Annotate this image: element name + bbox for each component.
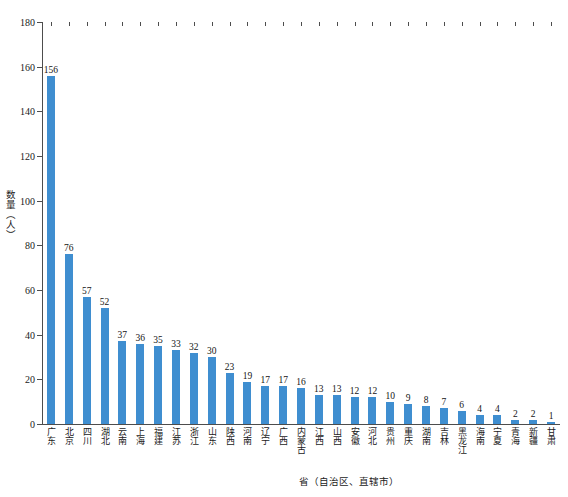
y-axis-title-text: 数量（人） <box>3 190 17 240</box>
x-tick-mark <box>301 22 302 26</box>
bar[interactable] <box>47 76 55 424</box>
bar[interactable] <box>458 411 466 424</box>
bar-slot[interactable]: 30 <box>203 22 221 424</box>
bar-slot[interactable]: 9 <box>399 22 417 424</box>
bar-slot[interactable]: 76 <box>60 22 78 424</box>
bar[interactable] <box>243 382 251 424</box>
bar-slot[interactable]: 37 <box>113 22 131 424</box>
bar-slot[interactable]: 12 <box>346 22 364 424</box>
bar-slot[interactable]: 23 <box>221 22 239 424</box>
x-tick-mark <box>158 22 159 26</box>
bar-slot[interactable]: 4 <box>489 22 507 424</box>
bar[interactable] <box>101 308 109 424</box>
x-category-label-text: 吉林 <box>439 427 448 445</box>
x-category-label-text: 四川 <box>82 427 91 445</box>
x-tick-mark <box>194 22 195 26</box>
bar[interactable] <box>118 341 126 424</box>
bar-slot[interactable]: 12 <box>364 22 382 424</box>
x-tick-mark <box>337 22 338 26</box>
bar[interactable] <box>154 346 162 424</box>
bar[interactable] <box>440 408 448 424</box>
x-tick-mark <box>444 22 445 26</box>
bar-slot[interactable]: 10 <box>381 22 399 424</box>
x-tick-mark <box>426 22 427 26</box>
x-tick-mark <box>51 22 52 26</box>
bar[interactable] <box>190 353 198 424</box>
bar-slot[interactable]: 57 <box>78 22 96 424</box>
bar-value-label: 17 <box>261 375 271 385</box>
x-category-label: 湖南 <box>420 427 432 449</box>
y-tick-label: 40 <box>25 329 35 340</box>
bar[interactable] <box>65 254 73 424</box>
x-tick-mark <box>265 22 266 26</box>
bar-slot[interactable]: 2 <box>524 22 542 424</box>
bar-slot[interactable]: 32 <box>185 22 203 424</box>
bar[interactable] <box>422 406 430 424</box>
bar[interactable] <box>368 397 376 424</box>
bar[interactable] <box>493 415 501 424</box>
bar[interactable] <box>172 350 180 424</box>
x-category-label: 山东 <box>206 427 218 449</box>
bar-slot[interactable]: 13 <box>328 22 346 424</box>
bar-slot[interactable]: 17 <box>256 22 274 424</box>
x-category-label-text: 云南 <box>118 427 127 445</box>
bar[interactable] <box>476 415 484 424</box>
bar-slot[interactable]: 52 <box>96 22 114 424</box>
bar[interactable] <box>261 386 269 424</box>
x-category-label: 湖北 <box>99 427 111 449</box>
bar[interactable] <box>315 395 323 424</box>
bar[interactable] <box>208 357 216 424</box>
bar-slot[interactable]: 2 <box>506 22 524 424</box>
x-category-label-text: 山东 <box>207 427 216 445</box>
x-tick-mark <box>247 22 248 26</box>
x-tick-mark <box>497 22 498 26</box>
bar[interactable] <box>404 404 412 424</box>
bar-slot[interactable]: 6 <box>453 22 471 424</box>
bar-slot[interactable]: 33 <box>167 22 185 424</box>
bar-value-label: 13 <box>314 384 324 394</box>
bar-value-label: 7 <box>442 397 447 407</box>
bar[interactable] <box>333 395 341 424</box>
bar[interactable] <box>279 386 287 424</box>
x-axis-line <box>42 424 560 425</box>
bar-slot[interactable]: 17 <box>274 22 292 424</box>
bar-value-label: 33 <box>171 339 181 349</box>
bar[interactable] <box>83 297 91 424</box>
bar[interactable] <box>511 420 519 424</box>
x-tick-mark <box>372 22 373 26</box>
x-category-label: 辽宁 <box>259 427 271 449</box>
x-category-label: 北京 <box>63 427 75 449</box>
bar-slot[interactable]: 36 <box>131 22 149 424</box>
x-tick-mark <box>105 22 106 26</box>
x-tick-mark <box>551 22 552 26</box>
x-category-label-text: 上海 <box>136 427 145 445</box>
y-tick-label: 20 <box>25 374 35 385</box>
x-category-label-text: 新疆 <box>529 427 538 445</box>
bar[interactable] <box>136 344 144 424</box>
bar[interactable] <box>386 402 394 424</box>
bar[interactable] <box>226 373 234 424</box>
x-tick-mark <box>480 22 481 26</box>
bar-slot[interactable]: 13 <box>310 22 328 424</box>
x-tick-mark <box>533 22 534 26</box>
bar[interactable] <box>529 420 537 424</box>
bar-slot[interactable]: 7 <box>435 22 453 424</box>
bar-slot[interactable]: 35 <box>149 22 167 424</box>
x-category-label-text: 湖南 <box>422 427 431 445</box>
x-category-label-text: 贵州 <box>386 427 395 445</box>
bar-slot[interactable]: 8 <box>417 22 435 424</box>
bar-value-label: 35 <box>153 335 163 345</box>
bar-slot[interactable]: 4 <box>471 22 489 424</box>
bar-slot[interactable]: 19 <box>238 22 256 424</box>
x-category-label-text: 陕西 <box>225 427 234 445</box>
bar[interactable] <box>351 397 359 424</box>
bar[interactable] <box>547 422 555 424</box>
x-category-label-text: 河北 <box>368 427 377 445</box>
bar-slot[interactable]: 1 <box>542 22 560 424</box>
bar-slot[interactable]: 156 <box>42 22 60 424</box>
bar[interactable] <box>297 388 305 424</box>
bar-slot[interactable]: 16 <box>292 22 310 424</box>
x-tick-mark <box>408 22 409 26</box>
x-category-label: 四川 <box>81 427 93 449</box>
y-axis-title: 数量（人） <box>2 0 18 430</box>
